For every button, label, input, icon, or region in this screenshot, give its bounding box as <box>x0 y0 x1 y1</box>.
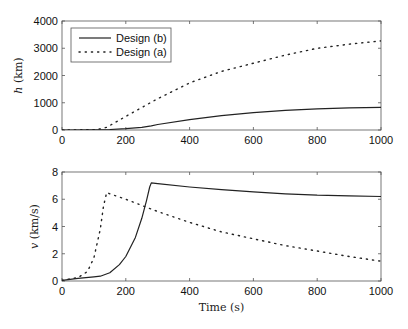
y-tick-label: 1000 <box>34 97 58 109</box>
x-tick-label: 200 <box>117 285 135 297</box>
chart-figure: 0200400600800100001000200030004000h (km)… <box>0 0 408 329</box>
legend-label: Design (b) <box>116 32 167 44</box>
axes-box <box>62 172 381 281</box>
series-design-b <box>62 107 381 130</box>
x-tick-label: 1000 <box>369 285 393 297</box>
y-tick-label: 2 <box>52 248 58 260</box>
y-axis-label: h (km) <box>12 57 25 93</box>
x-tick-label: 1000 <box>369 134 393 146</box>
x-tick-label: 0 <box>59 134 65 146</box>
y-tick-label: 4 <box>52 221 58 233</box>
y-tick-label: 4000 <box>34 15 58 27</box>
series-design-a <box>62 192 381 280</box>
x-axis-label: Time (s) <box>199 301 245 314</box>
y-tick-label: 2000 <box>34 70 58 82</box>
x-tick-label: 400 <box>180 285 198 297</box>
y-axis-label: v (km/s) <box>28 204 41 249</box>
x-tick-label: 600 <box>244 285 262 297</box>
legend: Design (b)Design (a) <box>71 28 171 62</box>
x-tick-label: 800 <box>308 285 326 297</box>
x-tick-label: 800 <box>308 134 326 146</box>
x-tick-label: 0 <box>59 285 65 297</box>
y-tick-label: 6 <box>52 193 58 205</box>
y-tick-label: 8 <box>52 166 58 178</box>
altitude-plot: 0200400600800100001000200030004000h (km)… <box>12 15 393 146</box>
legend-label: Design (a) <box>116 46 167 58</box>
velocity-plot: 0200400600800100002468v (km/s)Time (s) <box>28 166 393 314</box>
x-tick-label: 200 <box>117 134 135 146</box>
x-tick-label: 600 <box>244 134 262 146</box>
y-tick-label: 0 <box>52 124 58 136</box>
y-tick-label: 3000 <box>34 42 58 54</box>
y-tick-label: 0 <box>52 275 58 287</box>
x-tick-label: 400 <box>180 134 198 146</box>
